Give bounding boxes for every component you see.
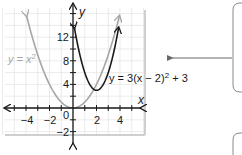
y-tick-label-4: 4 — [63, 78, 69, 90]
y-tick-label-neg2: −2 — [56, 126, 69, 138]
y-axis-label: y — [78, 5, 86, 19]
transformed-curve-equation: y = 3(x − 2)2 + 3 — [109, 71, 188, 84]
y-tick-label-8: 8 — [63, 55, 69, 67]
x-tick-label-2: 2 — [94, 114, 100, 126]
x-tick-label-neg4: −4 — [21, 114, 34, 126]
x-axis-label: x — [137, 93, 145, 107]
origin-label: 0 — [63, 109, 69, 121]
y-tick-label-12: 12 — [57, 31, 69, 43]
x-tick-label-neg2: −2 — [44, 114, 57, 126]
x-tick-label-4: 4 — [117, 114, 123, 126]
callout-box-top — [233, 3, 242, 92]
parent-curve-equation: y = x2 — [7, 52, 37, 65]
callout-box-bottom — [233, 133, 242, 155]
graph-figure: −4 −2 2 4 0 12 8 4 −2 x y y = x2 y = 3(x… — [0, 0, 242, 155]
